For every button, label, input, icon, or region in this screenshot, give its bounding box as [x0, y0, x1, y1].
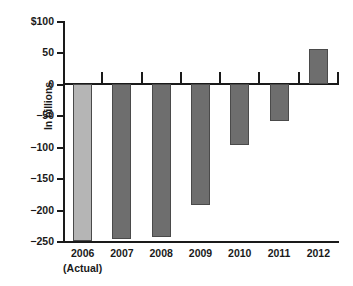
bar-2007 — [112, 84, 131, 239]
y-axis-tick-label: −100 — [0, 141, 54, 153]
y-axis-tick-label: −50 — [0, 109, 54, 121]
x-axis-separator-tick — [258, 72, 260, 84]
y-axis-tick-label: −200 — [0, 204, 54, 216]
x-axis-separator-tick — [141, 72, 143, 84]
x-axis-separator-tick — [298, 72, 300, 84]
y-axis-tick-label: 50 — [0, 46, 54, 58]
y-axis-tick-mark — [57, 178, 64, 180]
y-axis-tick-mark — [57, 21, 64, 23]
bar-2009 — [191, 84, 210, 205]
x-axis-sublabel-2006: (Actual) — [55, 262, 111, 274]
y-axis-tick-mark — [57, 147, 64, 149]
y-axis-tick-mark — [57, 241, 64, 243]
y-axis-tick-label: 0 — [0, 78, 54, 90]
y-axis-tick-label: −250 — [0, 235, 54, 247]
bar-2006 — [73, 84, 92, 241]
bar-2011 — [270, 84, 289, 121]
x-axis-label-2012: 2012 — [290, 247, 346, 259]
y-axis-tick-label: $100 — [0, 15, 54, 27]
x-axis-separator-tick — [101, 72, 103, 84]
y-axis-tick-mark — [57, 52, 64, 54]
bar-2008 — [152, 84, 171, 237]
bar-2010 — [230, 84, 249, 145]
x-axis-separator-tick — [219, 72, 221, 84]
y-axis-title: In billions — [42, 58, 58, 154]
bar-2012 — [309, 49, 328, 84]
y-axis-tick-mark — [57, 115, 64, 117]
x-axis-end-tick — [337, 72, 339, 84]
x-axis-separator-tick — [180, 72, 182, 84]
bar-chart-figure: In billions $100500−50−100−150−200−250 2… — [0, 0, 353, 286]
y-axis-tick-mark — [57, 210, 64, 212]
y-axis-tick-label: −150 — [0, 172, 54, 184]
